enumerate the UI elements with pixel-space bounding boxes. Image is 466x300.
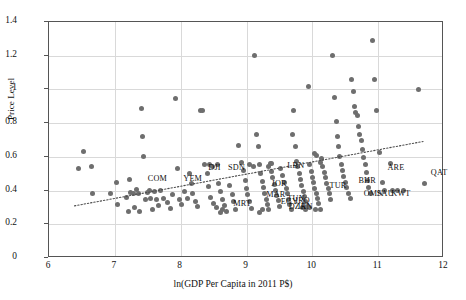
country-label-com: COM <box>148 175 167 183</box>
x-tick-label: 7 <box>99 261 129 270</box>
y-tick-label: 1 <box>0 83 17 92</box>
country-label-bhr: BHR <box>358 177 375 185</box>
y-tick-label: 1.4 <box>0 16 17 25</box>
x-tick-label: 12 <box>428 261 458 270</box>
y-tick-label: 0.4 <box>0 185 17 194</box>
y-tick-label: 0.2 <box>0 218 17 227</box>
country-label-are: ARE <box>387 164 404 172</box>
country-label-sdn: SDN <box>228 164 245 172</box>
x-tick-label: 8 <box>165 261 195 270</box>
country-label-qat: QAT <box>431 169 448 177</box>
y-tick-label: 1.2 <box>0 50 17 59</box>
country-label-irn: IRN <box>298 203 313 211</box>
y-tick-label: 0.8 <box>0 117 17 126</box>
country-label-lbn: LBN <box>287 162 304 170</box>
x-tick-label: 9 <box>231 261 261 270</box>
country-label-yem: YEM <box>183 175 202 183</box>
y-tick-label: 0 <box>0 252 17 261</box>
x-tick-label: 10 <box>296 261 326 270</box>
country-label-kwt: KWT <box>391 190 410 198</box>
scatter-chart-figure: Price Level 00.20.40.60.811.21.4 6789101… <box>0 0 466 300</box>
country-label-tur: TUR <box>329 182 346 190</box>
y-tick-mark <box>44 257 48 258</box>
country-label-jor: JOR <box>272 180 287 188</box>
plot-area: COMYEMDJISDNMRTLBNJORMAREGYTUNIRQDZAIRNT… <box>48 21 443 257</box>
x-axis-title: ln(GDP Per Capita in 2011 P$) <box>0 278 466 289</box>
country-label-mrt: MRT <box>233 200 251 208</box>
y-tick-label: 0.6 <box>0 151 17 160</box>
trend-line <box>49 22 442 256</box>
x-tick-label: 6 <box>33 261 63 270</box>
country-label-dji: DJI <box>208 164 220 172</box>
x-tick-label: 11 <box>362 261 392 270</box>
